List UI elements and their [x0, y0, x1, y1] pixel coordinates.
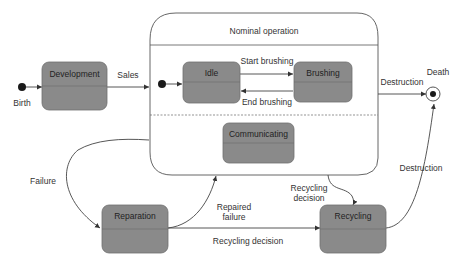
label-sales: Sales	[117, 70, 138, 80]
initial-pseudostate-inner	[158, 80, 166, 88]
label-birth: Birth	[13, 98, 31, 108]
state-development[interactable]: Development	[42, 62, 107, 110]
state-diagram: Nominal operation Developm	[0, 0, 469, 264]
state-brushing[interactable]: Brushing	[294, 62, 352, 102]
label-recycling-decision-2: decision	[293, 193, 324, 203]
label-end-brushing: End brushing	[242, 97, 292, 107]
label-failure: Failure	[30, 176, 56, 186]
label-destruction-right: Destruction	[400, 163, 443, 173]
state-label: Brushing	[306, 68, 340, 78]
final-state-death	[426, 87, 440, 101]
label-repaired-failure-1: Repaired	[217, 202, 252, 212]
composite-title: Nominal operation	[230, 26, 299, 36]
initial-pseudostate-birth	[18, 83, 26, 91]
label-start-brushing: Start brushing	[241, 56, 294, 66]
label-destruction-top: Destruction	[381, 77, 424, 87]
edge-recycling-decision-top	[328, 175, 354, 205]
state-reparation[interactable]: Reparation	[102, 205, 168, 253]
state-communicating[interactable]: Communicating	[223, 123, 294, 163]
state-label: Reparation	[114, 211, 156, 221]
state-label: Idle	[205, 68, 219, 78]
label-recycling-decision-bottom: Recycling decision	[213, 236, 284, 246]
state-idle[interactable]: Idle	[183, 62, 240, 103]
state-label: Recycling	[335, 211, 372, 221]
state-label: Communicating	[229, 129, 288, 139]
state-label: Development	[49, 69, 100, 79]
label-repaired-failure-2: failure	[222, 212, 245, 222]
label-recycling-decision-1: Recycling	[291, 183, 328, 193]
label-death: Death	[427, 67, 450, 77]
state-recycling[interactable]: Recycling	[320, 205, 386, 253]
edge-repaired-failure	[168, 176, 216, 228]
